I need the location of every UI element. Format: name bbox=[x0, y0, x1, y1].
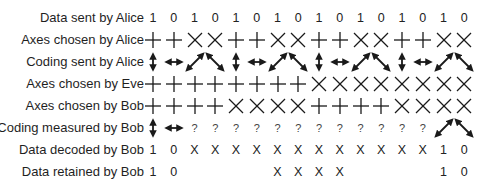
row-coding-sent-by-alice: Coding sent by Alice bbox=[0, 51, 487, 73]
bit-value: X bbox=[413, 139, 433, 161]
bit-value: X bbox=[330, 139, 350, 161]
unknown-value: ? bbox=[330, 117, 350, 139]
arrow-diagonal-up-icon bbox=[351, 51, 371, 73]
row-data-retained-by-bob: Data retained by Bob10XXXX10 bbox=[0, 161, 487, 183]
bit-value: X bbox=[288, 161, 308, 183]
plus-icon bbox=[185, 95, 205, 117]
arrow-diagonal-up-icon bbox=[434, 51, 454, 73]
arrow-diagonal-down-icon bbox=[205, 51, 225, 73]
empty-cell bbox=[392, 161, 412, 183]
cross-icon bbox=[454, 95, 474, 117]
row-label: Axes chosen by Alice bbox=[21, 29, 144, 51]
cross-icon bbox=[288, 95, 308, 117]
row-axes-chosen-by-bob: Axes chosen by Bob bbox=[0, 95, 487, 117]
cross-icon bbox=[247, 95, 267, 117]
plus-icon bbox=[185, 73, 205, 95]
bit-value: 1 bbox=[434, 139, 454, 161]
bit-value: 1 bbox=[143, 7, 163, 29]
bit-value: 0 bbox=[247, 7, 267, 29]
bit-value: 1 bbox=[226, 7, 246, 29]
unknown-value: ? bbox=[288, 117, 308, 139]
plus-icon bbox=[164, 73, 184, 95]
bit-value: 1 bbox=[185, 7, 205, 29]
row-label: Coding sent by Alice bbox=[26, 51, 144, 73]
plus-icon bbox=[226, 73, 246, 95]
plus-icon bbox=[164, 29, 184, 51]
row-data-decoded-by-bob: Data decoded by Bob10XXXXXXXXXXXX10 bbox=[0, 139, 487, 161]
cross-icon bbox=[434, 73, 454, 95]
plus-icon bbox=[330, 29, 350, 51]
cross-icon bbox=[205, 29, 225, 51]
bit-value: X bbox=[392, 139, 412, 161]
unknown-value: ? bbox=[392, 117, 412, 139]
bit-value: X bbox=[309, 161, 329, 183]
bit-value: X bbox=[247, 139, 267, 161]
row-label: Data retained by Bob bbox=[22, 161, 144, 183]
bit-value: 0 bbox=[164, 7, 184, 29]
plus-icon bbox=[143, 95, 163, 117]
cross-icon bbox=[268, 29, 288, 51]
bit-value: 0 bbox=[205, 7, 225, 29]
arrow-vertical-icon bbox=[309, 51, 329, 73]
cross-icon bbox=[288, 29, 308, 51]
row-axes-chosen-by-eve: Axes chosen by Eve bbox=[0, 73, 487, 95]
cross-icon bbox=[309, 73, 329, 95]
arrow-vertical-icon bbox=[226, 51, 246, 73]
empty-cell bbox=[351, 161, 371, 183]
plus-icon bbox=[205, 95, 225, 117]
empty-cell bbox=[247, 161, 267, 183]
bit-value: 1 bbox=[143, 161, 163, 183]
unknown-value: ? bbox=[185, 117, 205, 139]
bit-value: 1 bbox=[268, 7, 288, 29]
unknown-value: ? bbox=[247, 117, 267, 139]
row-label: Axes chosen by Eve bbox=[26, 73, 144, 95]
cross-icon bbox=[413, 95, 433, 117]
bit-value: 0 bbox=[330, 7, 350, 29]
bit-value: X bbox=[268, 139, 288, 161]
row-label: Data decoded by Bob bbox=[19, 139, 144, 161]
unknown-value: ? bbox=[371, 117, 391, 139]
arrow-vertical-icon bbox=[143, 51, 163, 73]
bit-value: X bbox=[268, 161, 288, 183]
bit-value: 0 bbox=[413, 7, 433, 29]
plus-icon bbox=[392, 29, 412, 51]
plus-icon bbox=[247, 29, 267, 51]
row-axes-chosen-by-alice: Axes chosen by Alice bbox=[0, 29, 487, 51]
arrow-vertical-icon bbox=[143, 117, 163, 139]
cross-icon bbox=[392, 95, 412, 117]
bit-value: X bbox=[288, 139, 308, 161]
unknown-value: ? bbox=[205, 117, 225, 139]
bit-value: 1 bbox=[351, 7, 371, 29]
cross-icon bbox=[413, 73, 433, 95]
arrow-diagonal-down-icon bbox=[371, 51, 391, 73]
plus-icon bbox=[413, 29, 433, 51]
plus-icon bbox=[143, 73, 163, 95]
cross-icon bbox=[371, 29, 391, 51]
arrow-diagonal-down-icon bbox=[454, 51, 474, 73]
unknown-value: ? bbox=[351, 117, 371, 139]
bit-value: 1 bbox=[309, 7, 329, 29]
plus-icon bbox=[309, 29, 329, 51]
plus-icon bbox=[330, 95, 350, 117]
empty-cell bbox=[371, 161, 391, 183]
cross-icon bbox=[351, 73, 371, 95]
cross-icon bbox=[434, 29, 454, 51]
plus-icon bbox=[371, 95, 391, 117]
bit-value: 0 bbox=[454, 7, 474, 29]
arrow-horizontal-icon bbox=[164, 117, 184, 139]
plus-icon bbox=[268, 73, 288, 95]
unknown-value: ? bbox=[268, 117, 288, 139]
cross-icon bbox=[185, 29, 205, 51]
bit-value: X bbox=[226, 139, 246, 161]
arrow-horizontal-icon bbox=[413, 51, 433, 73]
arrow-horizontal-icon bbox=[330, 51, 350, 73]
bit-value: 0 bbox=[288, 7, 308, 29]
row-coding-measured-by-bob: Coding measured by Bob???????????? bbox=[0, 117, 487, 139]
bit-value: 1 bbox=[143, 139, 163, 161]
plus-icon bbox=[247, 73, 267, 95]
cross-icon bbox=[454, 73, 474, 95]
bit-value: X bbox=[351, 139, 371, 161]
bit-value: X bbox=[371, 139, 391, 161]
plus-icon bbox=[288, 73, 308, 95]
unknown-value: ? bbox=[413, 117, 433, 139]
